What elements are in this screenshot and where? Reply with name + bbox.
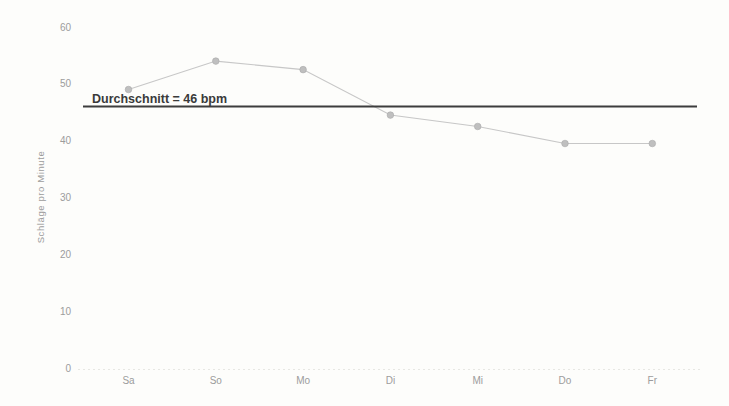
y-axis-title: Schläge pro Minute <box>35 151 46 244</box>
y-tick-label: 50 <box>60 78 72 89</box>
line-chart-canvas: 0102030405060SaSoMoDiMiDoFr Schläge pro … <box>0 0 729 406</box>
y-tick-label: 30 <box>60 192 72 203</box>
heart-rate-weekly-chart: 0102030405060SaSoMoDiMiDoFr Schläge pro … <box>0 0 729 406</box>
data-point-So <box>213 58 220 65</box>
x-tick-label: So <box>210 375 223 386</box>
data-point-Mo <box>300 66 307 73</box>
y-tick-label: 40 <box>60 135 72 146</box>
y-tick-label: 10 <box>60 306 72 317</box>
x-tick-label: Di <box>386 375 395 386</box>
data-point-Do <box>562 140 569 147</box>
y-tick-label: 20 <box>60 249 72 260</box>
x-tick-label: Sa <box>122 375 135 386</box>
y-tick-label: 0 <box>65 363 71 374</box>
x-tick-label: Mo <box>296 375 310 386</box>
x-tick-label: Mi <box>472 375 483 386</box>
chart-plot-area: 0102030405060SaSoMoDiMiDoFr <box>60 22 700 387</box>
y-tick-label: 60 <box>60 22 72 33</box>
data-point-Fr <box>649 140 656 147</box>
average-annotation-label: Durchschnitt = 46 bpm <box>92 92 227 106</box>
x-tick-label: Do <box>559 375 572 386</box>
data-point-Mi <box>474 123 481 130</box>
data-point-Di <box>387 112 394 119</box>
x-tick-label: Fr <box>648 375 658 386</box>
